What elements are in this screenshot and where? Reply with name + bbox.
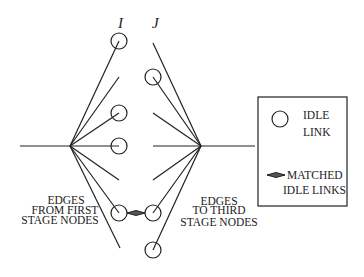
switching-network-diagram: I J EDGES FROM FIRST STAGE NODES EDGES T… [0, 0, 364, 277]
legend-matched-arrow-icon [267, 173, 285, 178]
right-caption: EDGES TO THIRD STAGE NODES [180, 195, 257, 228]
legend-idle-label-1: IDLE [303, 109, 329, 121]
right-caption-line-2: TO THIRD [193, 204, 246, 216]
left-caption: EDGES FROM FIRST STAGE NODES [21, 194, 98, 226]
right-edge-7 [153, 146, 201, 250]
legend-matched-label-1: MATCHED [287, 169, 343, 181]
left-edge-5 [70, 146, 119, 180]
legend-idle-circle-icon [272, 111, 288, 127]
legend-box: IDLE LINK MATCHED IDLE LINKS [258, 97, 347, 206]
right-edge-2 [153, 77, 201, 146]
matched-link-arrow-icon [127, 211, 145, 216]
legend-matched-label-2: IDLE LINKS [283, 184, 346, 196]
right-caption-line-3: STAGE NODES [180, 216, 257, 228]
column-label-i: I [117, 15, 124, 31]
column-label-j: J [152, 15, 160, 31]
left-edge-1 [70, 41, 119, 146]
left-caption-line-3: STAGE NODES [21, 214, 98, 226]
right-edge-1 [153, 43, 201, 146]
legend-idle-label-2: LINK [303, 126, 331, 138]
right-edge-6 [153, 146, 201, 213]
